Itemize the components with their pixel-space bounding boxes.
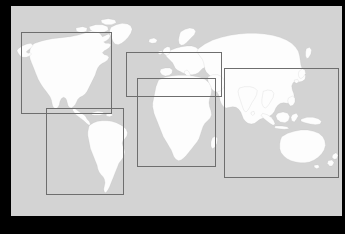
screenshot-viewport [0,0,345,234]
world-map-canvas[interactable] [11,6,342,216]
landmass-greenland [110,23,133,44]
landmass-ellesmere [101,19,116,25]
region-box-africa[interactable] [137,78,216,166]
region-box-south-america[interactable] [46,108,124,195]
region-box-north-america[interactable] [21,32,112,114]
landmass-iceland [149,38,158,43]
landmass-kamchatka [306,47,312,58]
landmass-scandinavia [178,28,195,45]
region-box-asia-pacific[interactable] [224,68,338,178]
